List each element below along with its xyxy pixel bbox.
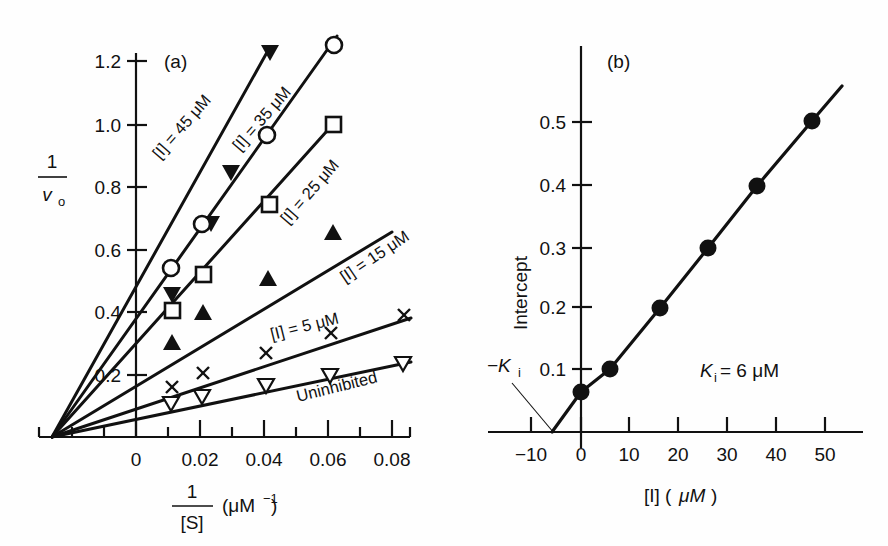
panel-a-markers-25 <box>165 117 341 318</box>
panel-a-xtick-1: 0.02 <box>182 449 219 470</box>
panel-b-xlabel-units: μM <box>678 485 705 506</box>
panel-a-y-axis-title: 1 v o <box>38 151 67 209</box>
panel-b-neg-ki-leader-line <box>512 383 554 433</box>
panel-b-ki-value: = 6 μM <box>720 360 779 381</box>
figure-container: 0.2 0.4 0.6 0.8 1.0 1.2 0 0.0 <box>0 0 888 546</box>
panel-b-x-axis-title: [I] ( μM ) <box>644 485 717 506</box>
panel-b-label: (b) <box>607 51 630 72</box>
panel-b-ki-subscript: i <box>714 370 717 385</box>
panel-a-markers-45 <box>163 45 279 303</box>
panel-a-xlabel-numerator: 1 <box>187 481 198 502</box>
panel-a-xtick-3: 0.06 <box>310 449 347 470</box>
panel-a-ytick-2: 0.6 <box>95 240 121 261</box>
panel-b-ytick-2: 0.3 <box>540 238 566 259</box>
panel-a-line-45 <box>52 47 270 437</box>
panel-a-series-label-5: [I] = 5 μM <box>268 309 340 343</box>
figure-svg: 0.2 0.4 0.6 0.8 1.0 1.2 0 0.0 <box>0 0 888 546</box>
panel-b-neg-ki-subscript: i <box>518 365 521 380</box>
panel-b-ytick-4: 0.5 <box>540 112 566 133</box>
panel-a: 0.2 0.4 0.6 0.8 1.0 1.2 0 0.0 <box>38 36 412 533</box>
panel-a-xtick-0: 0 <box>131 449 142 470</box>
panel-b-xtick-2: 10 <box>618 444 639 465</box>
panel-b-ytick-1: 0.2 <box>540 297 566 318</box>
panel-a-series-label-45: [I] = 45 μM <box>149 91 214 162</box>
panel-a-series-label-15: [I] = 15 μM <box>337 227 412 286</box>
panel-b-xlabel-close: ) <box>711 485 717 506</box>
panel-a-xtick-4: 0.08 <box>374 449 411 470</box>
panel-b-xtick-5: 40 <box>765 444 786 465</box>
panel-a-xtick-2: 0.04 <box>246 449 283 470</box>
panel-a-ylabel-denominator-subscript: o <box>58 194 65 209</box>
panel-b-ki-annotation: K i = 6 μM <box>700 360 779 385</box>
panel-a-ytick-5: 1.2 <box>95 51 121 72</box>
panel-b-xtick-3: 20 <box>667 444 688 465</box>
panel-b-xtick-4: 30 <box>716 444 737 465</box>
panel-b-xtick-1: 0 <box>576 444 587 465</box>
panel-b-xlabel-main: [I] ( <box>644 485 672 506</box>
panel-b-xtick-6: 50 <box>814 444 835 465</box>
panel-a-line-15 <box>52 232 392 437</box>
panel-a-xlabel-units-close: ) <box>271 495 277 516</box>
panel-b: 0.1 0.2 0.3 0.4 0.5 −10 0 10 20 30 40 50 <box>487 46 863 506</box>
panel-a-ylabel-denominator: v <box>42 184 53 205</box>
panel-b-ytick-3: 0.4 <box>540 175 567 196</box>
panel-a-series-label-25: [I] = 25 μM <box>277 156 342 227</box>
panel-a-ylabel-numerator: 1 <box>47 151 58 172</box>
panel-a-xlabel-denominator: [S] <box>180 512 203 533</box>
panel-b-x-ticks <box>531 417 825 432</box>
panel-a-x-axis-title: 1 [S] (μM −1 ) <box>172 481 278 533</box>
panel-b-ki-symbol: K <box>700 360 714 381</box>
panel-b-neg-ki-label: −K <box>487 355 512 376</box>
panel-b-y-axis-title: Intercept <box>510 255 531 330</box>
panel-b-data-line <box>552 86 842 432</box>
panel-b-ytick-0: 0.1 <box>540 359 566 380</box>
panel-a-ytick-4: 1.0 <box>95 115 121 136</box>
panel-a-label: (a) <box>164 51 187 72</box>
panel-b-xtick-0: −10 <box>515 444 547 465</box>
panel-a-xlabel-units: (μM <box>222 495 255 516</box>
panel-a-ytick-3: 0.8 <box>95 177 121 198</box>
